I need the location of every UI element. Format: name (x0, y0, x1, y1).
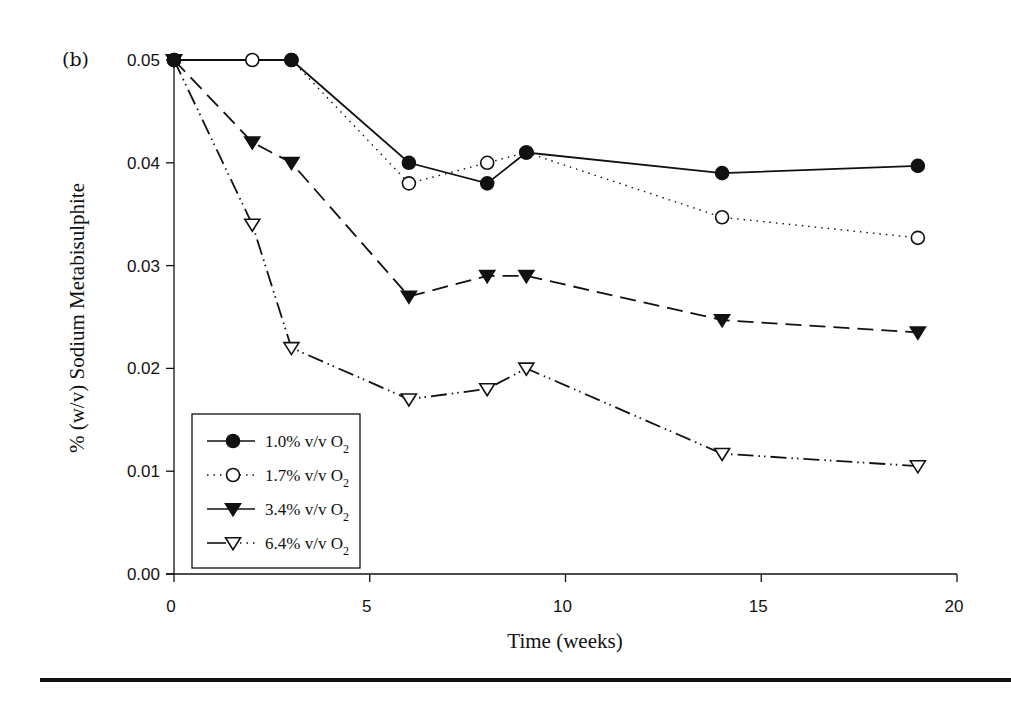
open-triangle-down-marker (480, 384, 495, 396)
legend-label: 1.0% v/v O (265, 432, 343, 451)
open-triangle-down-marker (715, 448, 730, 460)
filled-circle-marker (716, 167, 729, 180)
legend-label: 3.4% v/v O (265, 500, 343, 519)
filled-circle-marker (168, 54, 181, 67)
x-tick-label: 10 (553, 597, 572, 616)
open-circle-marker (402, 177, 415, 190)
series-line-3 (174, 60, 918, 332)
legend: 1.0% v/v O21.7% v/v O23.4% v/v O26.4% v/… (192, 414, 360, 568)
legend-label-subscript: 2 (343, 510, 349, 524)
y-tick-label: 0.04 (127, 154, 160, 173)
open-triangle-down-marker (245, 219, 260, 231)
open-triangle-down-marker (284, 343, 299, 355)
panel-label: (b) (62, 48, 89, 70)
chart-svg: (b) 0.000.010.020.030.040.05 05101520 % … (0, 0, 1011, 707)
open-triangle-down-marker (401, 394, 416, 406)
legend-label-subscript: 2 (343, 544, 349, 558)
filled-circle-marker (285, 54, 298, 67)
filled-circle-marker (520, 146, 533, 159)
x-axis-title: Time (weeks) (507, 629, 622, 653)
open-circle-marker (716, 211, 729, 224)
open-circle-marker (246, 54, 259, 67)
series-line-2 (174, 60, 918, 238)
series-lines (174, 60, 918, 466)
y-tick-label: 0.05 (127, 51, 160, 70)
legend-label-subscript: 2 (343, 476, 349, 490)
series-line-1 (174, 60, 918, 183)
filled-circle-marker (402, 156, 415, 169)
open-circle-marker (481, 156, 494, 169)
open-triangle-down-marker (519, 363, 534, 375)
filled-triangle-down-marker (910, 327, 925, 339)
y-tick-label: 0.02 (127, 359, 160, 378)
legend-label: 6.4% v/v O (265, 534, 343, 553)
filled-circle-marker (911, 159, 924, 172)
open-triangle-down-marker (910, 461, 925, 473)
filled-triangle-down-marker (284, 158, 299, 170)
y-tick-label: 0.00 (127, 565, 160, 584)
y-axis: 0.000.010.020.030.040.05 (127, 51, 174, 584)
x-tick-label: 5 (362, 597, 371, 616)
x-axis: 05101520 (166, 574, 963, 616)
x-tick-label: 15 (749, 597, 768, 616)
filled-triangle-down-marker (245, 137, 260, 149)
y-axis-title: % (w/v) Sodium Metabisulphite (65, 183, 89, 453)
x-tick-label: 20 (945, 597, 964, 616)
filled-circle-marker (481, 177, 494, 190)
legend-open-circle-icon (227, 469, 240, 482)
y-tick-label: 0.03 (127, 257, 160, 276)
open-circle-marker (911, 231, 924, 244)
legend-filled-circle-icon (227, 435, 240, 448)
legend-label: 1.7% v/v O (265, 466, 343, 485)
filled-triangle-down-marker (401, 291, 416, 303)
series-markers (167, 54, 926, 473)
legend-label-subscript: 2 (343, 442, 349, 456)
series-line-4 (174, 60, 918, 466)
y-tick-label: 0.01 (127, 462, 160, 481)
x-tick-label: 0 (166, 597, 175, 616)
